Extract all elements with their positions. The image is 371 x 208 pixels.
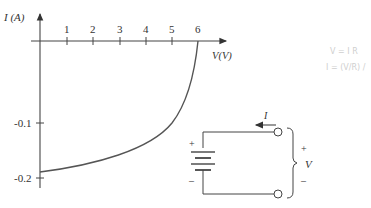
voltage-label: V <box>305 158 313 170</box>
y-tick-minus-0-2: -0.2 <box>14 172 31 184</box>
iv-curve <box>40 41 198 172</box>
battery-circuit <box>191 128 297 198</box>
x-axis-label: V(V) <box>212 50 232 62</box>
x-tick-4: 4 <box>143 23 149 35</box>
x-tick-6: 6 <box>195 23 201 35</box>
handwritten-note-2: I = (V/R) / <box>326 63 366 72</box>
terminal-plus: + <box>301 143 307 154</box>
battery-plus: + <box>189 138 195 149</box>
current-label: I <box>263 110 268 121</box>
terminal-minus: – <box>300 175 307 186</box>
battery-minus: – <box>188 175 195 186</box>
x-tick-3: 3 <box>117 23 123 35</box>
y-axis-label: I (A) <box>3 11 25 24</box>
handwritten-note-1: V = I R <box>330 47 358 56</box>
y-tick-minus-0-1: -0.1 <box>14 117 31 129</box>
iv-diagram: I (A) V(V) 1 2 3 4 5 6 -0.1 -0.2 <box>0 0 371 208</box>
x-tick-2: 2 <box>90 23 96 35</box>
x-tick-1: 1 <box>64 23 70 35</box>
x-tick-5: 5 <box>169 23 175 35</box>
